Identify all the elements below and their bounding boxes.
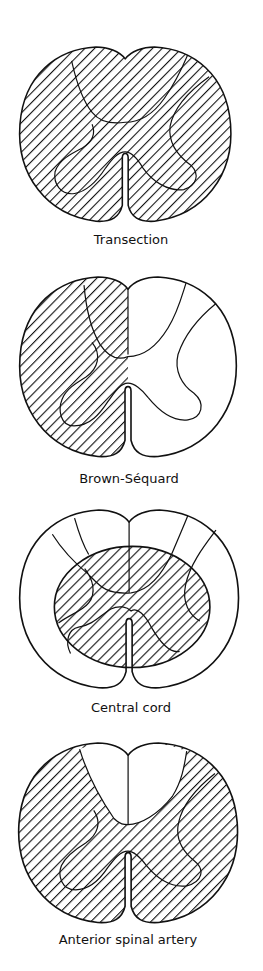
lesion-area-full: [20, 47, 231, 221]
label-anterior-spinal-artery: Anterior spinal artery: [59, 932, 198, 947]
label-central-cord: Central cord: [91, 700, 171, 715]
spinal-cord-lesion-figure: Transection Brown-Séquard Central cord A…: [0, 0, 263, 971]
panel-anterior-spinal-artery: [19, 743, 238, 923]
label-brown-sequard: Brown-Séquard: [79, 471, 179, 486]
label-transection: Transection: [93, 232, 168, 247]
panel-central-cord: [20, 510, 239, 688]
panel-brown-sequard: [20, 277, 237, 457]
panel-transection: [20, 47, 231, 221]
